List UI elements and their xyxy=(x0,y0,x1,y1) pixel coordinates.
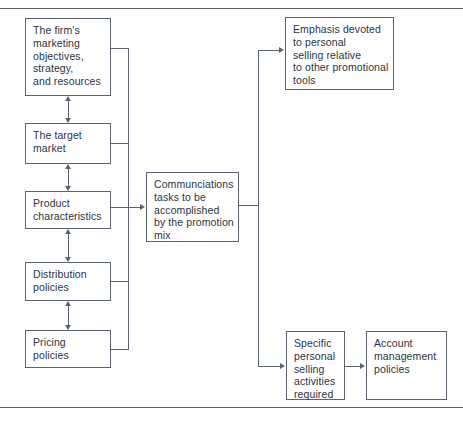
top-divider-rule xyxy=(0,8,463,9)
connector-stub-product-characteristics xyxy=(111,207,129,208)
connector-stub-distribution-policies xyxy=(111,281,129,282)
node-specific-selling-activities: Specific personal selling activities req… xyxy=(286,331,345,400)
arrowhead-right-specific-selling-activities xyxy=(280,363,285,369)
connector-distribution-to-pricing xyxy=(68,304,69,327)
node-pricing-policies: Pricing policies xyxy=(25,330,111,368)
connector-stub-firm-objectives xyxy=(111,48,129,49)
connector-bus-to-specific-activities xyxy=(258,366,281,367)
connector-bus-to-emphasis xyxy=(258,50,280,51)
connector-left-bus xyxy=(128,48,129,350)
arrowhead-up-distribution-policies xyxy=(65,301,71,306)
node-product-characteristics: Product characteristics xyxy=(25,191,111,229)
connector-stub-pricing-policies xyxy=(111,349,129,350)
node-communications-tasks: Communciations tasks to be accomplished … xyxy=(146,172,239,242)
node-firm-objectives: The firm's marketing objectives, strateg… xyxy=(25,18,111,96)
arrowhead-right-emphasis-personal-selling xyxy=(279,47,284,53)
connector-stub-target-market xyxy=(111,143,129,144)
arrowhead-right-account-management-policies xyxy=(360,363,365,369)
arrowhead-down-distribution-policies xyxy=(65,257,71,262)
bottom-divider-rule xyxy=(0,407,463,408)
arrowhead-down-pricing-policies xyxy=(65,325,71,330)
diagram-canvas: The firm's marketing objectives, strateg… xyxy=(0,0,463,424)
node-target-market: The target market xyxy=(25,123,111,164)
arrowhead-up-target-market xyxy=(65,164,71,169)
node-distribution-policies: Distribution policies xyxy=(25,262,111,301)
arrowhead-down-product-characteristics xyxy=(65,186,71,191)
connector-right-bus xyxy=(258,50,259,367)
connector-firm-to-target xyxy=(68,99,69,120)
connector-specific-to-account-management xyxy=(345,366,361,367)
connector-product-to-distribution xyxy=(68,232,69,259)
arrowhead-down-target-market xyxy=(65,118,71,123)
arrowhead-right-communications-tasks xyxy=(140,204,145,210)
connector-communications-tasks-out xyxy=(239,205,259,206)
arrowhead-up-firm-objectives xyxy=(65,96,71,101)
node-emphasis-personal-selling: Emphasis devoted to personal selling rel… xyxy=(285,17,394,90)
connector-target-to-product xyxy=(68,167,69,188)
arrowhead-up-product-characteristics xyxy=(65,229,71,234)
node-account-management-policies: Account management policies xyxy=(366,331,447,400)
